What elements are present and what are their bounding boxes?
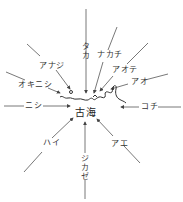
wind-label-kochi: コチ [141, 103, 158, 111]
wind-label-ao: アオ [131, 78, 148, 86]
wind-label-aote: アオテ [112, 66, 138, 74]
wind-label-ae: アエ [111, 140, 128, 148]
wind-label-jikaze: ジカゼ [79, 154, 87, 181]
wind-arrow-nakachi [108, 27, 117, 50]
wind-label-hai: ハイ [43, 139, 60, 147]
wind-arrow-aote [127, 43, 148, 64]
wind-arrow-hai [24, 152, 42, 172]
wind-label-nishi: ニシ [25, 102, 42, 110]
wind-label-nakachi: ナカチ [97, 51, 123, 59]
center-place-label: 古海 [75, 104, 97, 119]
wind-arrow-anaji [27, 44, 40, 56]
wind-label-okinishi: オキニシ [18, 81, 52, 89]
wind-arrow-ao [145, 74, 168, 80]
wind-label-anaji: アナジ [39, 62, 65, 70]
wind-label-taka: タカ [80, 42, 88, 60]
wind-arrow-ae [124, 146, 140, 163]
wind-arrow-okinishi [6, 72, 25, 80]
